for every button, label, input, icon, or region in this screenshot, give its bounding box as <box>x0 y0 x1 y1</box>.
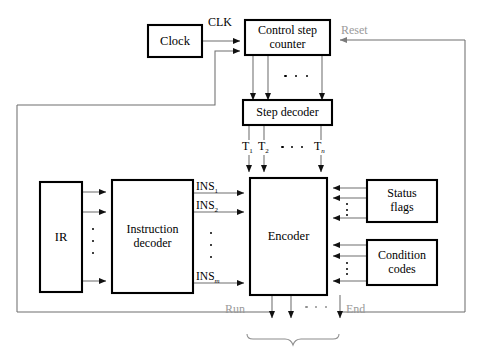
output-brace <box>247 334 339 345</box>
ins1-subscript: 1 <box>215 187 219 195</box>
run-signal-label: Run <box>225 303 245 316</box>
condition-codes-bus-ellipsis <box>345 262 348 275</box>
insm-subscript: m <box>215 277 220 285</box>
ins2-base: INS <box>196 199 215 211</box>
reset-signal-label: Reset <box>341 24 368 37</box>
t-signal-ellipsis <box>281 145 303 149</box>
ins1-base: INS <box>196 180 215 192</box>
status-flags-bus-ellipsis <box>345 203 348 216</box>
t2-subscript: 2 <box>265 147 269 155</box>
insm-signal-label: INSm <box>196 270 220 286</box>
clk-signal-label: CLK <box>208 16 232 29</box>
encoder-output-ellipsis <box>305 305 327 309</box>
ins2-signal-label: INS2 <box>196 199 218 215</box>
t1-subscript: 1 <box>249 147 253 155</box>
tn-subscript: n <box>321 147 325 155</box>
t2-signal-label: T2 <box>258 140 269 156</box>
tn-signal-label: Tn <box>314 140 325 156</box>
ins1-signal-label: INS1 <box>196 180 218 196</box>
block-outlines <box>40 20 437 295</box>
end-signal-label: End <box>346 303 365 316</box>
ir-bus-ellipsis <box>91 228 94 254</box>
ins2-subscript: 2 <box>215 206 219 214</box>
insm-base: INS <box>196 270 215 282</box>
ins-bus-ellipsis <box>209 232 212 258</box>
t1-signal-label: T1 <box>242 140 253 156</box>
counter-output-ellipsis <box>284 74 308 78</box>
diagram-canvas: Clock Control step counter Step decoder … <box>0 0 482 356</box>
